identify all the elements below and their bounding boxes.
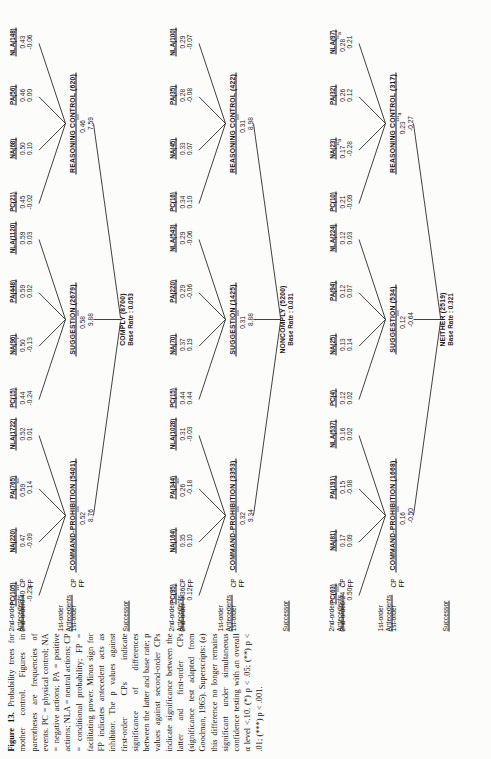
second-order-cp-value: 0.28 <box>178 69 186 121</box>
first-order-node-label: SUGGESTION (534) <box>388 284 396 354</box>
second-order-node-label: NA(81) <box>328 529 336 551</box>
figure-caption: Figure 13. Probability trees for mother … <box>5 633 264 751</box>
second-order-cp-value: 0.12 <box>338 265 346 317</box>
second-order-cp-value: 0.44 <box>178 372 186 424</box>
second-order-fp-value: 0.10 <box>185 176 193 228</box>
successor-node-label: COMPLY (8700) <box>118 249 125 389</box>
second-order-antecedent-node: NA(45)0.330.07 <box>168 122 193 174</box>
first-order-node-label: COMMAND-PROHIBITION (3353) <box>228 458 236 572</box>
first-order-cp-value: 0.32*** <box>238 417 246 613</box>
second-order-node-label: NA(164) <box>168 527 176 552</box>
second-order-node-header: NA(70) <box>168 318 176 370</box>
significance-superscript: *** <box>236 310 242 316</box>
second-order-antecedent-node: PC(10)0.21-0.09 <box>328 176 353 228</box>
probability-trees: 2nd-orderAntecedents2nd-orderCPFP1st-ord… <box>0 0 491 631</box>
second-order-node-label: PA(765) <box>8 475 16 500</box>
first-order-cp-value: 0.58*** <box>78 221 86 417</box>
second-order-node-header: PC(21) <box>8 176 16 228</box>
second-order-fp-value: 0.12 <box>185 568 193 620</box>
second-order-cp-value: 0.40*** <box>18 568 26 620</box>
second-order-node-label: PA(344) <box>168 475 176 500</box>
successor-label-line: Successor <box>441 600 449 631</box>
second-order-cp-value: 0.26 <box>338 69 346 121</box>
significance-superscript: **a <box>335 138 341 145</box>
second-order-cp-value: 0.50 <box>18 122 26 174</box>
second-order-cp-value: 0.34 <box>178 176 186 228</box>
second-order-node-label: NA(220) <box>8 527 16 552</box>
second-order-fp-value: 0.09 <box>345 514 353 566</box>
first-order-node-header: COMMAND-PROHIBITION (5401) <box>68 417 76 613</box>
first-order-node-header: COMMAND-PROHIBITION (3353) <box>228 417 236 613</box>
second-order-node-label: PC(15) <box>168 387 176 409</box>
second-order-antecedent-node: PA(35)0.28-0.08 <box>168 69 193 121</box>
first-order-node-header: REASONING CONTROL (422) <box>228 25 236 221</box>
second-order-node-label: PA(220) <box>168 279 176 304</box>
second-order-fp-value: 0.14 <box>345 318 353 370</box>
second-order-antecedent-node: PC(15)0.440.44 <box>168 372 193 424</box>
significance-superscript: ***a <box>396 112 402 121</box>
first-order-node-label: REASONING CONTROL (620) <box>68 72 76 175</box>
second-order-antecedent-node: PA(191)0.15-0.08 <box>328 461 353 513</box>
second-order-cp-value: 0.21 <box>338 176 346 228</box>
second-order-cp-value: 0.13 <box>338 318 346 370</box>
significance-superscript: *** <box>76 506 82 512</box>
second-order-cp-value: 0.28**a <box>338 16 346 68</box>
probability-tree: 2nd-orderAntecedents2nd-orderCPFP1st-ord… <box>326 0 476 631</box>
second-order-node-label: PC(21) <box>8 191 16 213</box>
second-order-fp-value: -0.06 <box>25 16 33 68</box>
second-order-node-header: NA(220) <box>8 514 16 566</box>
first-order-fp-value: -0.27 <box>406 25 414 221</box>
second-order-antecedent-node: NLA(148)0.43-0.06 <box>8 16 33 68</box>
second-order-node-label: NLA(97) <box>328 29 336 55</box>
second-order-node-header: PA(191) <box>328 461 336 513</box>
second-order-node-header: NA(25) <box>328 318 336 370</box>
significance-superscript: *** <box>76 310 82 316</box>
second-order-antecedent-node: NA(68)0.500.10 <box>8 122 33 174</box>
significance-superscript: *** <box>396 310 402 316</box>
second-order-fp-value: 0.12 <box>345 69 353 121</box>
second-order-antecedent-node: PC(95)0.360.12 <box>168 568 193 620</box>
second-order-fp-value: -0.24 <box>25 372 33 424</box>
second-order-node-label: PC(4) <box>328 388 336 406</box>
second-order-antecedent-node: PA(448)0.590.02 <box>8 265 33 317</box>
second-order-antecedent-node: NA(70)0.370.19 <box>168 318 193 370</box>
significance-superscript: ***a <box>335 583 341 592</box>
probability-tree: 2nd-orderAntecedents2nd-orderCPFP1st-ord… <box>166 0 316 631</box>
successor-base-rate: Base Rate : 0.321 <box>446 249 453 389</box>
second-order-node-header: NA(23) <box>328 122 336 174</box>
second-order-fp-value: 0.19 <box>185 318 193 370</box>
first-order-cp-value: 0.12*** <box>398 221 406 417</box>
second-order-node-header: PC(16) <box>168 176 176 228</box>
successor-base-rate: Base Rate : 0.053 <box>126 249 133 389</box>
second-order-node-header: PA(94) <box>328 265 336 317</box>
second-order-node-label: NLA(100) <box>168 27 176 56</box>
second-order-antecedent-node: PC(16)0.340.10 <box>168 176 193 228</box>
first-order-node-header: COMMAND-PROHIBITION (1668) <box>388 417 396 613</box>
second-order-node-header: PC(15) <box>8 372 16 424</box>
second-order-antecedent-node: PA(220)0.29-0.06 <box>168 265 193 317</box>
second-order-node-header: NLA(100) <box>168 16 176 68</box>
second-order-cp-value: 0.35 <box>178 514 186 566</box>
second-order-node-label: NA(68) <box>8 137 16 159</box>
first-order-fp-value: 8.88 <box>246 221 254 417</box>
second-order-node-label: PC(16) <box>168 191 176 213</box>
second-order-antecedent-node: NA(220)0.47-0.09 <box>8 514 33 566</box>
first-order-antecedent-node: REASONING CONTROL (317)0.23***a-0.27 <box>388 25 414 221</box>
second-order-node-header: NLA(148) <box>8 16 16 68</box>
significance-superscript: *** <box>236 506 242 512</box>
second-order-cp-value: 0.59 <box>18 265 26 317</box>
successor-base-rate: Base Rate : 0.031 <box>286 249 293 389</box>
second-order-cp-value: 0.29 <box>178 16 186 68</box>
successor-node: COMPLY (8700)Base Rate : 0.053 <box>118 249 133 389</box>
first-order-antecedents-label-line: 1st-order <box>376 594 384 631</box>
figure-caption-text: Probability trees for mother control. Fi… <box>6 633 263 751</box>
second-order-node-label: NA(70) <box>168 333 176 355</box>
second-order-fp-value: -0.06 <box>185 265 193 317</box>
second-order-antecedent-node: NLA(100)0.29-0.07 <box>168 16 193 68</box>
first-order-antecedents-label-line: 1st-order <box>216 594 224 631</box>
second-order-antecedent-node: NA(23)0.17**a-0.28 <box>328 122 353 174</box>
figure-plate: Figure 13. Probability trees for mother … <box>0 0 491 759</box>
second-order-antecedent-node: PA(56)0.460.00 <box>8 69 33 121</box>
second-order-cp-value: 0.36 <box>178 568 186 620</box>
successor-label: Successor <box>441 600 449 631</box>
